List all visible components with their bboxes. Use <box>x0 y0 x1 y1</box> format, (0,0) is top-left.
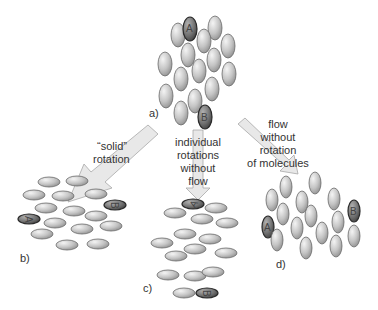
molecule-letter-b: B <box>201 112 208 123</box>
arrow-label-individual-line3: without <box>180 162 216 174</box>
molecule <box>52 191 74 201</box>
molecule <box>31 229 53 239</box>
molecule-letter-a: A <box>186 23 193 34</box>
molecule-letter-a: A <box>23 216 34 223</box>
arrow-label-flow-line2: without <box>260 131 296 143</box>
molecule <box>87 239 109 249</box>
molecule <box>184 244 206 254</box>
molecule <box>330 235 342 257</box>
molecule-letter-a: A <box>264 222 271 233</box>
molecule <box>157 270 179 280</box>
molecule <box>205 77 219 101</box>
molecule <box>221 34 235 58</box>
molecule <box>222 62 236 86</box>
molecule <box>56 240 78 250</box>
panel-label-a: a) <box>149 107 159 119</box>
molecule <box>332 211 344 233</box>
molecule <box>151 238 173 248</box>
molecule <box>291 217 303 239</box>
molecule <box>316 222 328 244</box>
molecule <box>100 221 122 231</box>
molecule <box>173 288 195 298</box>
molecule <box>159 84 173 108</box>
molecule <box>181 43 195 67</box>
panel-a: A B a) <box>149 16 236 129</box>
molecule <box>164 208 186 218</box>
molecule <box>207 48 221 72</box>
molecule <box>300 237 312 259</box>
molecule <box>305 205 317 227</box>
molecule-letter-b: B <box>109 202 120 209</box>
arrow-individual-rotations: individual rotations without flow <box>175 130 221 200</box>
panel-label-c: c) <box>143 282 152 294</box>
panel-c: A B c) <box>143 198 238 298</box>
molecule <box>348 225 360 247</box>
molecule <box>63 206 85 216</box>
molecule <box>280 176 292 198</box>
molecule <box>23 190 45 200</box>
molecule <box>85 189 107 199</box>
molecule <box>277 203 289 225</box>
molecule <box>309 172 321 194</box>
arrow-label-individual-line1: individual <box>175 136 221 148</box>
molecule <box>202 267 224 277</box>
panel-d: B A d) <box>262 172 360 270</box>
molecule <box>158 52 172 76</box>
molecule <box>216 218 238 228</box>
arrow-label-flow-line1: flow <box>268 118 288 130</box>
arrow-label-individual-line2: rotations <box>177 149 220 161</box>
arrow-label-individual-line4: flow <box>188 175 208 187</box>
arrow-label-flow-line4: of molecules <box>247 157 309 169</box>
molecule <box>266 189 278 211</box>
arrow-solid-rotation: “solid” rotation <box>68 125 158 202</box>
panel-b: B A b) <box>18 176 126 264</box>
molecule <box>215 248 237 258</box>
molecule-letter-b: B <box>201 290 212 297</box>
molecule <box>174 67 188 91</box>
molecule <box>199 234 221 244</box>
arrow-label-solid-line1: “solid” <box>97 140 127 152</box>
molecule <box>205 203 227 213</box>
molecule <box>271 229 283 251</box>
arrow-label-flow-line3: rotation <box>260 144 297 156</box>
molecule <box>192 59 206 83</box>
molecule <box>71 224 93 234</box>
molecule <box>174 101 188 125</box>
molecule <box>66 176 88 186</box>
arrow-flow-without-rotation: flow without rotation of molecules <box>238 118 309 174</box>
molecule <box>165 251 187 261</box>
molecule <box>35 203 57 213</box>
diagram-canvas: A B a) “solid” rotation individual rotat… <box>0 0 378 310</box>
panel-label-d: d) <box>276 258 286 270</box>
panel-label-b: b) <box>20 252 30 264</box>
molecule <box>197 29 211 53</box>
molecule <box>174 229 196 239</box>
molecule <box>328 188 340 210</box>
molecule <box>191 214 213 224</box>
molecule <box>38 177 60 187</box>
arrow-label-solid-line2: rotation <box>93 153 130 165</box>
molecule-letter-b: B <box>350 206 357 217</box>
molecule <box>44 218 66 228</box>
molecule <box>85 211 107 221</box>
